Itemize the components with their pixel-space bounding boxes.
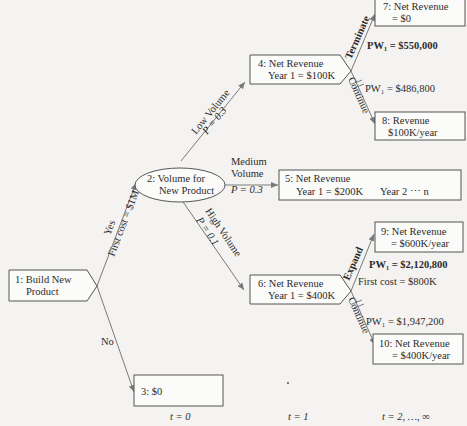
node-5-line2: Year 1 = $200K bbox=[296, 186, 363, 197]
node-7-terminate-outcome: 7: Net Revenue = $0 bbox=[375, 0, 465, 26]
node-1-build-new-product: 1: Build New Product bbox=[9, 270, 97, 301]
node-7-line1: 7: Net Revenue bbox=[383, 1, 449, 12]
edge-medium-label1: Medium bbox=[231, 156, 267, 167]
pw-continue-6: PW₁ = $1,947,200 bbox=[366, 316, 444, 327]
node-4-line1: 4: Net Revenue bbox=[258, 58, 324, 69]
decision-tree-diagram: 1: Build New Product 2: Volume for New P… bbox=[0, 0, 467, 426]
node-6-line1: 6: Net Revenue bbox=[258, 278, 324, 289]
node-7-line2: = $0 bbox=[392, 13, 411, 24]
edge-no-label: No bbox=[101, 336, 114, 347]
node-5-line2b: Year 2 ⋯ n bbox=[380, 186, 429, 197]
node-10-line1: 10: Net Revenue bbox=[379, 338, 450, 349]
node-9-line1: 9: Net Revenue bbox=[381, 226, 447, 237]
node-1-line1: 1: Build New bbox=[15, 274, 72, 285]
timeline-t0: t = 0 bbox=[170, 411, 191, 422]
node-9-line2: = $600K/year bbox=[391, 238, 450, 249]
stray-dot bbox=[287, 382, 289, 384]
timeline-t2: t = 2, …, ∞ bbox=[382, 411, 430, 422]
node-9-expand-outcome: 9: Net Revenue = $600K/year bbox=[375, 222, 463, 252]
node-5-line1: 5: Net Revenue bbox=[285, 173, 351, 184]
node-6-line2: Year 1 = $400K bbox=[268, 290, 335, 301]
node-8-line2: $100K/year bbox=[388, 127, 438, 138]
node-4-net-revenue-low: 4: Net Revenue Year 1 = $100K bbox=[250, 55, 351, 84]
node-8-continue-outcome: 8: Revenue $100K/year bbox=[375, 112, 465, 140]
pw-expand: PW₁ = $2,120,800 bbox=[369, 259, 448, 270]
node-4-line2: Year 1 = $100K bbox=[268, 70, 335, 81]
node-2-line2: New Product bbox=[159, 185, 214, 196]
node-2-volume-chance: 2: Volume for New Product bbox=[135, 168, 225, 202]
pw-terminate: PW₁ = $550,000 bbox=[367, 40, 438, 51]
node-3-zero: 3: $0 bbox=[134, 375, 223, 406]
node-6-net-revenue-high: 6: Net Revenue Year 1 = $400K bbox=[250, 275, 351, 304]
node-10-line2: = $400K/year bbox=[392, 350, 451, 361]
node-2-line1: 2: Volume for bbox=[147, 173, 205, 184]
pw-continue-4: PW₁ = $486,800 bbox=[365, 83, 435, 94]
edge-continue4-label: Continue bbox=[346, 75, 372, 115]
edge-medium-prob: P = 0.3 bbox=[230, 184, 263, 195]
node-8-line1: 8: Revenue bbox=[382, 115, 430, 126]
node-5-net-revenue-medium: 5: Net Revenue Year 1 = $200K Year 2 ⋯ n bbox=[279, 170, 461, 200]
node-3-line1: 3: $0 bbox=[141, 386, 162, 397]
timeline-t1: t = 1 bbox=[288, 411, 309, 422]
node-10-continue-outcome: 10: Net Revenue = $400K/year bbox=[373, 334, 463, 364]
edge-medium-label2: Volume bbox=[231, 168, 264, 179]
edge-terminate-label: Terminate bbox=[343, 14, 372, 61]
node-1-line2: Product bbox=[26, 286, 59, 297]
expand-first-cost: First cost = $800K bbox=[358, 276, 437, 287]
